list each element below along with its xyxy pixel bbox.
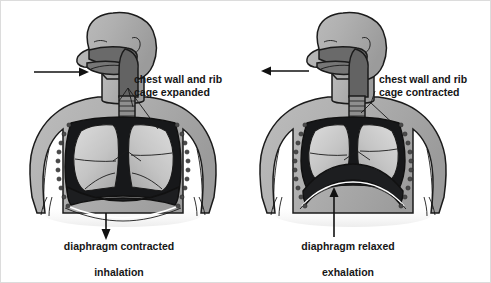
panel-exhalation: chest wall and rib cage contracted diaph… <box>260 13 467 278</box>
phase-label-inhalation: inhalation <box>94 266 144 278</box>
chest-label-line2-inhalation: cage expanded <box>134 86 210 98</box>
pharynx <box>349 49 368 97</box>
diaphragm-caption-exhalation: diaphragm relaxed <box>301 240 394 252</box>
diaphragm-caption-inhalation: diaphragm contracted <box>64 240 174 252</box>
figure-canvas: chest wall and rib cage expanded diaphra… <box>1 1 491 283</box>
air-arrow-inhalation <box>34 68 89 77</box>
air-arrow-exhalation <box>261 67 309 76</box>
breathing-mechanics-figure: chest wall and rib cage expanded diaphra… <box>0 0 491 283</box>
panel-inhalation: chest wall and rib cage expanded diaphra… <box>30 13 222 278</box>
chest-label-line1-exhalation: chest wall and rib <box>379 73 467 85</box>
chest-label-line1-inhalation: chest wall and rib <box>134 73 222 85</box>
phase-label-exhalation: exhalation <box>322 266 374 278</box>
chest-label-line2-exhalation: cage contracted <box>379 86 460 98</box>
